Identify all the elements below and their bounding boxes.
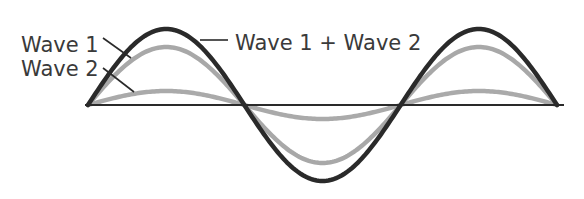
wave-1-leader-line	[103, 38, 131, 58]
wave-2-label: Wave 2	[21, 57, 99, 81]
wave-sum-label: Wave 1 + Wave 2	[235, 31, 421, 55]
wave-1-label: Wave 1	[21, 33, 99, 57]
wave-superposition-diagram: Wave 1 Wave 2 Wave 1 + Wave 2	[0, 0, 584, 199]
